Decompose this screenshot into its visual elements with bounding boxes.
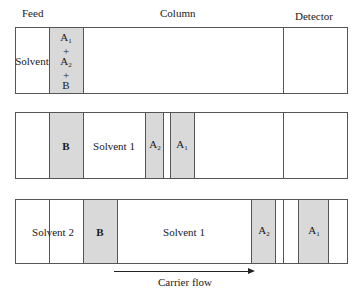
label-solvent-2: Solvent 2 <box>32 227 74 238</box>
label-solvent-1: Solvent 1 <box>93 141 135 152</box>
label-solvent-1: Solvent 1 <box>163 227 205 238</box>
feed-mixture-label: A1 + A2 + B <box>60 32 71 90</box>
label-a2: A2 <box>149 139 160 154</box>
label-b: B <box>62 141 69 152</box>
detector-boundary <box>283 113 284 178</box>
feed-header: Feed <box>22 7 43 19</box>
column-stage-1: Solvent A1 + A2 + B <box>15 27 348 94</box>
detector-boundary <box>283 28 284 93</box>
boundary-line <box>283 200 284 263</box>
component-a2: A2 <box>60 56 71 70</box>
label-a2: A2 <box>258 225 269 240</box>
column-stage-3: Solvent 2 B Solvent 1 A2 A1 <box>15 199 348 264</box>
component-b: B <box>62 80 69 90</box>
label-a1: A1 <box>308 225 319 240</box>
label-b: B <box>96 227 103 238</box>
component-a1: A1 <box>60 32 71 46</box>
carrier-flow-arrow <box>114 271 253 272</box>
column-stage-2: B Solvent 1 A2 A1 <box>15 112 348 179</box>
solvent-label: Solvent <box>15 56 49 67</box>
carrier-flow-label: Carrier flow <box>158 276 212 288</box>
label-a1: A1 <box>176 139 187 154</box>
column-header: Column <box>160 7 195 19</box>
detector-header: Detector <box>295 10 333 22</box>
